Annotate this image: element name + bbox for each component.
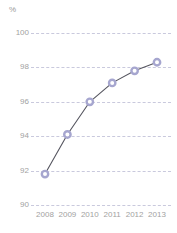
y-axis-tick-label: 100 <box>3 29 29 37</box>
y-axis-tick-label: 92 <box>3 167 29 175</box>
line-chart: % 9092949698100 200820092010201120122013 <box>0 0 177 233</box>
y-axis-tick-label: 96 <box>3 98 29 106</box>
x-axis-tick-label: 2008 <box>36 210 54 219</box>
plot-area <box>31 33 171 205</box>
series-line <box>45 62 157 174</box>
x-axis-tick-label: 2010 <box>81 210 99 219</box>
y-axis-unit-label: % <box>9 5 16 15</box>
data-point-marker <box>42 171 48 177</box>
y-axis-tick-labels: 9092949698100 <box>0 33 29 205</box>
data-point-marker <box>131 68 137 74</box>
data-point-marker <box>109 80 115 86</box>
x-axis-tick-label: 2012 <box>126 210 144 219</box>
gridline <box>31 205 171 206</box>
data-point-marker <box>154 59 160 65</box>
data-point-marker <box>64 131 70 137</box>
y-axis-tick-label: 90 <box>3 201 29 209</box>
data-point-marker <box>87 99 93 105</box>
x-axis-tick-label: 2011 <box>104 210 121 219</box>
series-markers <box>42 59 160 177</box>
x-axis-tick-label: 2009 <box>58 210 76 219</box>
x-axis-tick-labels: 200820092010201120122013 <box>31 210 171 224</box>
data-series-layer <box>31 33 171 205</box>
x-axis-tick-label: 2013 <box>148 210 166 219</box>
y-axis-tick-label: 94 <box>3 132 29 140</box>
y-axis-tick-label: 98 <box>3 63 29 71</box>
